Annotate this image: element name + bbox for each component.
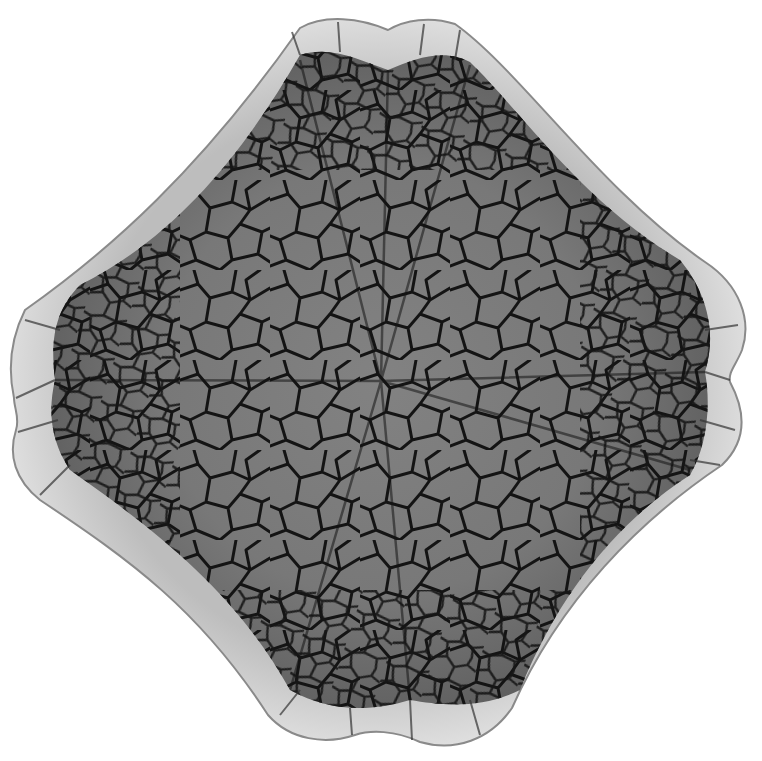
ceramic-dish-photo <box>0 0 762 761</box>
dish-illustration <box>0 0 762 761</box>
crackle-pattern <box>0 0 762 761</box>
